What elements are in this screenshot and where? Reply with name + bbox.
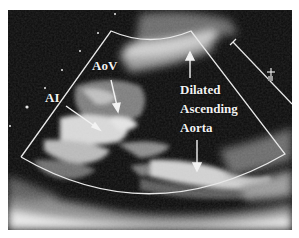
label-dilated: Dilated [180, 82, 220, 97]
label-aov: AoV [92, 58, 117, 73]
label-aorta: Aorta [180, 120, 213, 135]
label-ai: AI [45, 90, 59, 105]
depth-marker-square [268, 76, 273, 81]
echocardiogram-image [0, 0, 299, 238]
label-ascending: Ascending [180, 101, 238, 116]
